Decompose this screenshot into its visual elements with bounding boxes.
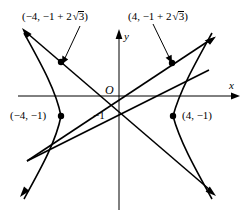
point-dot-top-left	[58, 59, 64, 65]
y-axis-label: y	[124, 31, 129, 42]
radicand: 3	[79, 10, 85, 22]
point-label-top-left-suffix: )	[84, 10, 88, 22]
y-intercept-label: −1	[93, 110, 105, 121]
point-dot-left-vertex	[58, 113, 64, 119]
point-dot-right-vertex	[170, 113, 176, 119]
y-axis	[116, 29, 123, 210]
radical-sqrt-3-left: √3	[72, 10, 85, 22]
point-label-top-left-prefix: (−4, −1 + 2	[22, 10, 72, 22]
point-label-top-right-suffix: )	[184, 10, 188, 22]
point-label-top-left: (−4, −1 + 2√3)	[22, 11, 88, 22]
radical-sqrt-3-right: √3	[172, 10, 185, 22]
radical-bar	[78, 11, 84, 12]
point-dot-top-right	[169, 60, 175, 66]
hyperbola-figure: (−4, −1 + 2√3) (4, −1 + 2√3) (−4, −1) (4…	[0, 0, 251, 217]
point-label-right-vertex: (4, −1)	[182, 110, 212, 121]
leader-line-top-right	[153, 24, 172, 63]
leader-line-top-left	[62, 26, 80, 64]
x-axis-label: x	[229, 80, 234, 91]
point-label-top-right-prefix: (4, −1 + 2	[128, 10, 172, 22]
point-label-left-vertex: (−4, −1)	[10, 110, 46, 121]
origin-label: O	[105, 84, 114, 96]
radical-bar	[178, 11, 184, 12]
point-label-top-right: (4, −1 + 2√3)	[128, 11, 188, 22]
radicand: 3	[179, 10, 185, 22]
